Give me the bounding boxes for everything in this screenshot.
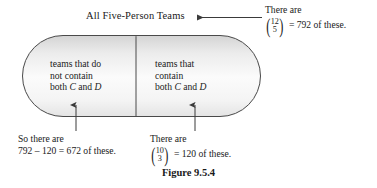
figure-container: All Five-Person Teams (0, 0, 377, 188)
left-region-label: teams that do not contain both C and D (50, 58, 101, 93)
left-region-line1: teams that do (50, 58, 101, 70)
binomial-bottom-3: 3 (158, 155, 162, 163)
left-region-line3: both C and D (50, 81, 101, 93)
paren-close-right: ) (164, 145, 168, 165)
right-region-line1: teams that (155, 58, 206, 70)
right-region-line3: both C and D (155, 81, 206, 93)
left-region-var-d: D (95, 81, 102, 92)
callout-bottom-middle: There are ( 10 3 ) = 120 of these. (150, 133, 231, 165)
callout-top-right-expression: ( 12 5 ) = 792 of these. (265, 16, 346, 36)
left-region-line3-mid: and (76, 81, 95, 92)
binomial-10-choose-3: ( 10 3 ) (150, 145, 170, 165)
callout-bottom-left-line2: 792 – 120 = 672 of these. (18, 145, 116, 157)
left-region-line2: not contain (50, 70, 101, 82)
callout-top-right-line1: There are (265, 4, 346, 16)
paren-open-left: ( (151, 145, 155, 165)
callout-bottom-middle-line1: There are (150, 133, 231, 145)
right-region-line3-mid: and (181, 81, 200, 92)
callout-bottom-middle-expression: ( 10 3 ) = 120 of these. (150, 145, 231, 165)
binomial-bottom-5: 5 (273, 26, 277, 34)
figure-caption: Figure 9.5.4 (0, 167, 377, 180)
paren-close-right: ) (279, 16, 283, 36)
callout-bottom-middle-result: = 120 of these. (174, 148, 231, 159)
paren-open-left: ( (266, 16, 270, 36)
binomial-12-choose-5: ( 12 5 ) (265, 16, 285, 36)
right-region-line2: contain (155, 70, 206, 82)
callout-bottom-left: So there are 792 – 120 = 672 of these. (18, 133, 116, 156)
right-region-line3-prefix: both (155, 81, 174, 92)
callout-top-right-result: = 792 of these. (289, 19, 346, 30)
right-region-label: teams that contain both C and D (155, 58, 206, 93)
callout-bottom-left-line1: So there are (18, 133, 116, 145)
callout-top-right: There are ( 12 5 ) = 792 of these. (265, 4, 346, 36)
right-region-var-d: D (200, 81, 207, 92)
left-region-line3-prefix: both (50, 81, 69, 92)
